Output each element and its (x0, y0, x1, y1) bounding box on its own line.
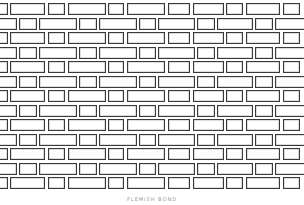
brick (10, 119, 45, 131)
diagram-caption: FLEMISH BOND (0, 194, 304, 204)
brick (79, 134, 97, 146)
brick (283, 90, 300, 102)
brick (193, 32, 224, 44)
brick (10, 61, 45, 73)
brick (275, 18, 304, 30)
brick (79, 105, 97, 117)
brick (158, 76, 195, 88)
brick (193, 90, 224, 102)
brick (255, 76, 273, 88)
brick (99, 76, 137, 88)
brick (139, 163, 156, 175)
brick (0, 76, 17, 88)
brick (127, 119, 165, 131)
brick (0, 3, 8, 15)
brick (19, 47, 37, 59)
brick (217, 76, 253, 88)
brick (246, 3, 280, 15)
brick (226, 3, 243, 15)
brick (168, 90, 190, 102)
brick (108, 90, 124, 102)
brick (19, 163, 37, 175)
brick (0, 105, 17, 117)
brick (283, 148, 300, 160)
brick (10, 32, 45, 44)
brick (39, 18, 77, 30)
brick (139, 76, 156, 88)
brick (255, 18, 273, 30)
brick (246, 177, 280, 189)
brick (127, 177, 165, 189)
brick (79, 76, 97, 88)
brick (0, 32, 8, 44)
brick (158, 163, 195, 175)
brick (19, 76, 37, 88)
brick (226, 119, 243, 131)
brick (0, 119, 8, 131)
brick (0, 163, 17, 175)
brick (0, 134, 17, 146)
brick (0, 90, 8, 102)
brick (246, 119, 280, 131)
brick (246, 32, 280, 44)
brick (19, 105, 37, 117)
brick (255, 105, 273, 117)
brick (48, 61, 65, 73)
brick (158, 134, 195, 146)
brick (48, 90, 65, 102)
brick (108, 32, 124, 44)
brick (193, 119, 224, 131)
brick (19, 18, 37, 30)
brick (283, 32, 300, 44)
brick (283, 61, 300, 73)
brick-wall-diagram (0, 0, 304, 194)
brick (108, 119, 124, 131)
brick (193, 148, 224, 160)
brick (275, 163, 304, 175)
brick (127, 32, 165, 44)
brick (255, 134, 273, 146)
brick (48, 32, 65, 44)
brick (68, 61, 106, 73)
brick (99, 134, 137, 146)
brick (10, 90, 45, 102)
brick (68, 148, 106, 160)
brick (226, 90, 243, 102)
brick (48, 148, 65, 160)
brick (139, 134, 156, 146)
brick (226, 61, 243, 73)
brick (108, 61, 124, 73)
brick (48, 119, 65, 131)
brick (226, 148, 243, 160)
brick (283, 3, 300, 15)
brick (0, 18, 17, 30)
brick (127, 90, 165, 102)
brick (79, 47, 97, 59)
brick (197, 105, 215, 117)
brick (139, 105, 156, 117)
brick (39, 47, 77, 59)
brick (283, 119, 300, 131)
brick (217, 163, 253, 175)
brick (68, 3, 106, 15)
brick (246, 90, 280, 102)
brick (193, 61, 224, 73)
brick (127, 3, 165, 15)
brick (10, 3, 45, 15)
brick (99, 47, 137, 59)
brick (139, 47, 156, 59)
brick (168, 119, 190, 131)
brick (99, 163, 137, 175)
brick (68, 90, 106, 102)
brick (275, 76, 304, 88)
brick (226, 32, 243, 44)
brick (139, 18, 156, 30)
brick (193, 177, 224, 189)
brick (226, 177, 243, 189)
brick (68, 119, 106, 131)
brick (48, 177, 65, 189)
brick (246, 148, 280, 160)
brick (255, 163, 273, 175)
brick (0, 47, 17, 59)
brick (99, 105, 137, 117)
